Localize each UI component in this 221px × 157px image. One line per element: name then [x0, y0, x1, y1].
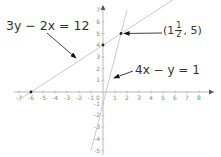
equation-label-1: 3y − 2x = 12	[6, 18, 89, 33]
x-tick-label: 3	[137, 94, 141, 101]
x-tick-label: -5	[40, 94, 46, 101]
x-tick-label: 2	[125, 94, 129, 101]
intersection-suffix: , 5)	[183, 24, 201, 37]
x-tick-label: -3	[64, 94, 70, 101]
intersection-label: (1 1 2 , 5)	[163, 22, 202, 39]
point-neg6-0	[30, 91, 33, 94]
y-tick-label: 5	[96, 30, 100, 37]
y-tick-label: -5	[94, 147, 100, 154]
x-tick-label: -6	[28, 94, 34, 101]
x-tick-label: -7	[16, 94, 22, 101]
fraction: 1 2	[175, 22, 182, 39]
x-tick-label: 8	[197, 94, 201, 101]
arrow-eq2	[114, 71, 133, 78]
intersection-prefix: (1	[163, 24, 174, 37]
y-tick-label: 1	[96, 76, 100, 83]
equation-label-2: 4x − y = 1	[135, 63, 200, 77]
x-tick-label: 1	[113, 94, 117, 101]
y-tick-label: 7	[96, 6, 100, 13]
fraction-denominator: 2	[176, 31, 181, 39]
y-axis-arrow-icon	[101, 5, 106, 10]
arrow-eq1	[47, 33, 76, 58]
x-tick-label: 6	[173, 94, 177, 101]
x-tick-label: -4	[52, 94, 58, 101]
x-axis-arrow-icon	[209, 90, 214, 95]
x-tick-label: 7	[185, 94, 189, 101]
x-tick-label: 5	[161, 94, 165, 101]
x-tick-label: 4	[149, 94, 153, 101]
line-3y-2x-12	[19, 0, 205, 100]
point-0-4	[102, 44, 105, 47]
y-tick-label: -1	[94, 100, 100, 107]
y-tick-label: 3	[96, 53, 100, 60]
arrow-intersection	[124, 33, 162, 34]
y-tick-label: 6	[96, 18, 100, 25]
y-tick-label: 2	[96, 65, 100, 72]
point-intersection	[120, 32, 123, 35]
x-tick-label: -2	[76, 94, 82, 101]
